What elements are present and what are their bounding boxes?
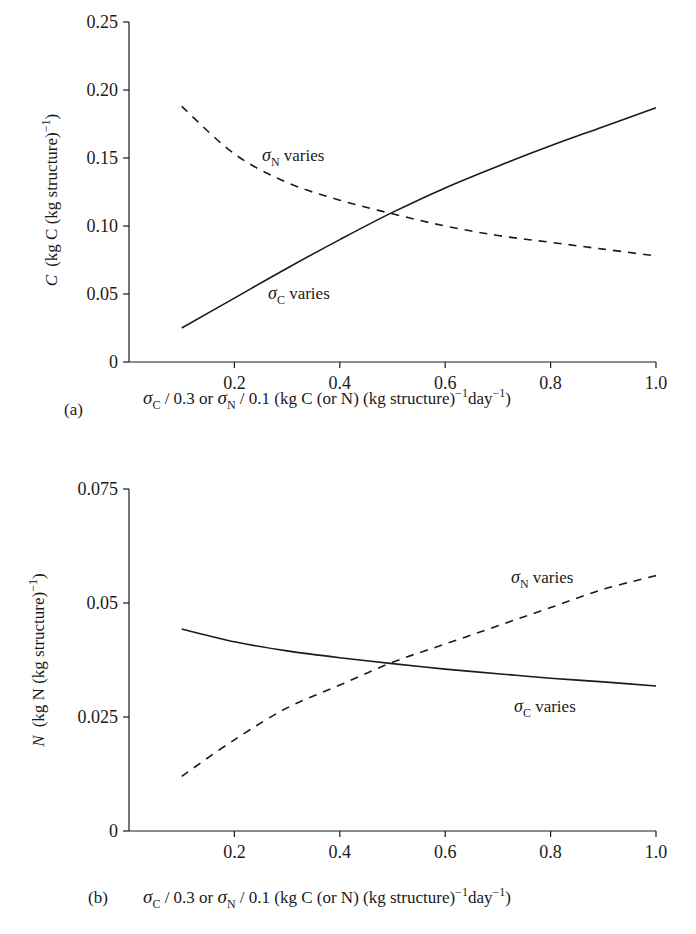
panel-a-series	[182, 106, 656, 328]
panel-a: 00.050.100.150.200.25 0.20.40.60.81.0 C(…	[39, 12, 667, 419]
panel-a-y-tick-labels: 00.050.100.150.200.25	[87, 12, 119, 372]
sigma-c-varies-line	[182, 108, 656, 328]
x-tick-label: 0.8	[539, 842, 562, 862]
sigma-c-varies-line	[182, 629, 656, 686]
x-tick-label: 0.6	[434, 842, 457, 862]
panel-b-x-tick-labels: 0.20.40.60.81.0	[223, 842, 667, 862]
figure: 00.050.100.150.200.25 0.20.40.60.81.0 C(…	[0, 0, 696, 934]
panel-a-label: (a)	[64, 400, 83, 419]
y-tick-label: 0.25	[87, 12, 119, 32]
sigma-n-varies-line	[182, 106, 656, 256]
panel-b-annotation-sigma-c: σC varies	[514, 696, 576, 720]
panel-a-x-axis-label: σC / 0.3 or σN / 0.1 (kg C (or N) (kg st…	[143, 386, 511, 412]
y-tick-label: 0.20	[87, 80, 119, 100]
y-tick-label: 0.05	[87, 593, 119, 613]
x-tick-label: 0.8	[539, 373, 562, 393]
panel-b-x-axis-label: σC / 0.3 or σN / 0.1 (kg C (or N) (kg st…	[143, 885, 511, 911]
y-tick-label: 0.025	[78, 707, 119, 727]
y-tick-label: 0	[109, 352, 118, 372]
y-tick-label: 0.05	[87, 284, 119, 304]
y-tick-label: 0	[109, 821, 118, 841]
panel-a-annotation-sigma-n: σN varies	[262, 145, 324, 169]
x-tick-label: 0.4	[329, 842, 352, 862]
y-tick-label: 0.10	[87, 216, 119, 236]
x-tick-label: 1.0	[645, 842, 668, 862]
panel-b-annotation-sigma-n: σN varies	[511, 567, 573, 591]
x-tick-label: 0.2	[223, 842, 246, 862]
y-tick-label: 0.15	[87, 148, 119, 168]
panel-b-y-axis-label: N(kg N (kg structure)−1)	[26, 573, 48, 747]
x-tick-label: 1.0	[645, 373, 668, 393]
panel-b-label: (b)	[88, 888, 108, 907]
panel-b-series	[182, 576, 656, 777]
panel-b: 00.0250.050.075 0.20.40.60.81.0 N(kg N (…	[26, 479, 667, 911]
sigma-n-varies-line	[182, 576, 656, 777]
panel-b-y-tick-labels: 00.0250.050.075	[78, 479, 119, 841]
panel-a-y-axis-label: C(kg C (kg structure)−1)	[39, 114, 61, 286]
y-tick-label: 0.075	[78, 479, 119, 499]
panel-a-annotation-sigma-c: σC varies	[268, 283, 330, 307]
